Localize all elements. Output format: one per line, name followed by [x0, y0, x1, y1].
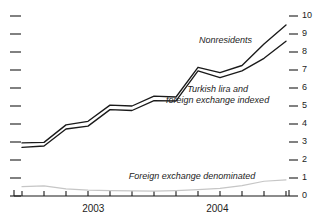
x-axis-year-label: 2004	[187, 204, 247, 214]
right-axis-tick-label: 10	[302, 11, 312, 20]
data-series-group	[22, 25, 286, 191]
series-label-turkish-lira-fx-indexed: Turkish lira andforeign exchange indexed	[166, 84, 269, 106]
right-axis-tick-label: 2	[302, 155, 307, 164]
right-axis-tick-label: 6	[302, 83, 307, 92]
series-label-nonresidents: Nonresidents	[199, 35, 252, 46]
right-axis-tick-label: 8	[302, 47, 307, 56]
left-axis-ticks	[10, 16, 21, 196]
right-axis-tick-label: 3	[302, 137, 307, 146]
chart-container: 012345678910 20032004 Nonresidents Turki…	[0, 0, 320, 223]
right-axis-tick-label: 5	[302, 101, 307, 110]
series-label-fx-denominated: Foreign exchange denominated	[129, 171, 256, 182]
right-axis-tick-label: 9	[302, 29, 307, 38]
right-axis-tick-label: 1	[302, 173, 307, 182]
right-axis-tick-label: 0	[302, 191, 307, 200]
chart-plot-area	[0, 0, 320, 223]
right-axis-tick-label: 7	[302, 65, 307, 74]
right-axis-tick-label: 4	[302, 119, 307, 128]
right-axis-ticks	[289, 16, 298, 196]
x-axis-year-label: 2003	[63, 204, 123, 214]
